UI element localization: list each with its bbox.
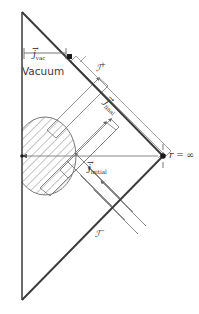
marker-at-infinity bbox=[160, 153, 166, 159]
j-vac-subscript: vac bbox=[36, 55, 45, 61]
vector-arrow-icon: → bbox=[32, 45, 39, 53]
j-initial-subscript: initial bbox=[91, 169, 107, 175]
r-infinity-label: r = ∞ bbox=[169, 151, 194, 160]
scri-minus-sign: − bbox=[99, 227, 105, 235]
j-initial-label: →jinitial bbox=[88, 158, 107, 175]
penrose-diagram-figure: Vacuum →jvac ℐ+ ℐ− →jfinal →jinitial r =… bbox=[0, 0, 199, 314]
scri-plus-sign: + bbox=[100, 61, 106, 69]
r-infinity-value: = ∞ bbox=[173, 150, 194, 160]
j-final-bracket bbox=[80, 56, 164, 158]
vacuum-region-label: Vacuum bbox=[22, 66, 64, 77]
vector-arrow-icon: → bbox=[87, 159, 94, 167]
j-vac-label: →jvac bbox=[33, 44, 45, 61]
scri-plus-label: ℐ+ bbox=[96, 62, 106, 73]
marker-at-origin bbox=[20, 154, 24, 158]
marker-on-scri-plus bbox=[67, 54, 72, 59]
scri-minus-label: ℐ− bbox=[95, 228, 105, 239]
